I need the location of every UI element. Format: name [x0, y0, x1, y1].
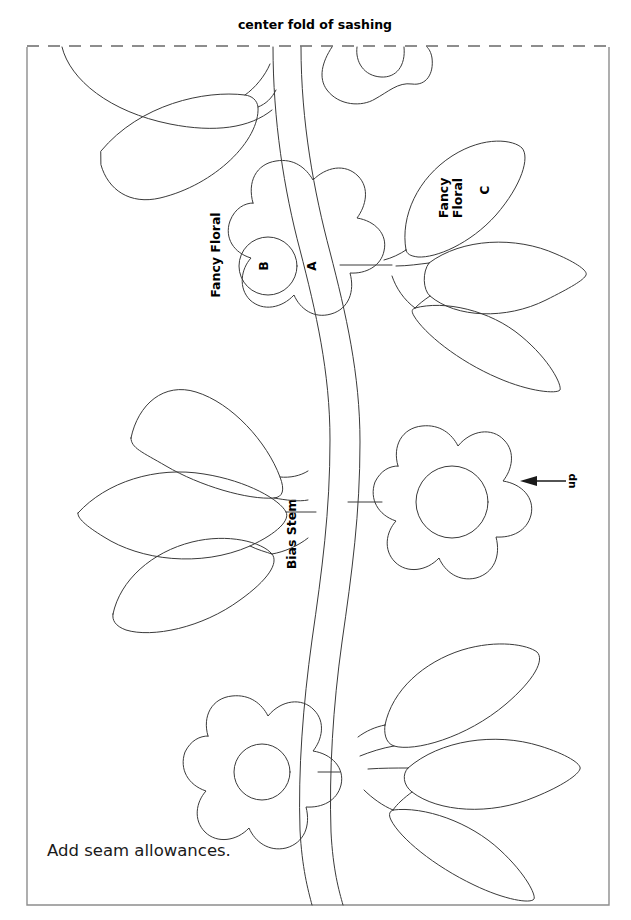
stem-left-edge [273, 47, 330, 905]
pattern-drawing: center fold of sashing Bias Stem [0, 0, 631, 920]
flower-top-center [357, 47, 405, 77]
flower-bottom-center [234, 744, 290, 800]
leaf-right-middle [424, 242, 586, 314]
leaf-top-partial [62, 47, 272, 128]
flower-petal-outline [228, 160, 384, 315]
orientation-indicator: up [520, 473, 577, 488]
flower-bottom [183, 696, 342, 849]
piece-label-c: C [478, 185, 492, 194]
flower-middle-outline [373, 426, 532, 579]
leaf-connector-14 [368, 768, 408, 769]
leaf-stem-connector-2 [245, 64, 270, 95]
leaf-cluster-bottom-right [358, 644, 580, 901]
leaf-stem-connector-1 [258, 90, 276, 107]
leaf-connector-5 [392, 276, 415, 308]
leaf-cluster-top-right [384, 242, 586, 392]
leaf-connector-11 [250, 546, 272, 554]
leaf-connector-12 [358, 725, 385, 737]
leaf-labeled-c: Fancy Floral C [405, 141, 525, 257]
piece-label-b: B [257, 261, 271, 270]
stem-label: Bias Stem [284, 499, 299, 570]
flower-middle-center [416, 466, 488, 538]
piece-label-a: A [305, 261, 319, 271]
fabric-label-leaf-line2: Floral [450, 178, 465, 218]
up-label: up [565, 473, 577, 488]
bias-stem: Bias Stem [273, 47, 360, 905]
leaf-mid-center-left [78, 472, 287, 559]
quilt-pattern-diagram: center fold of sashing Bias Stem [0, 0, 631, 920]
flower-middle [348, 426, 532, 579]
leaf-bottom-lower [390, 809, 535, 901]
leaf-connector-3 [384, 250, 406, 260]
leaf-bottom-middle [404, 739, 580, 809]
fabric-label-leaf-line1: Fancy [436, 178, 451, 219]
leaf-bottom-upper [385, 644, 540, 747]
fabric-label-top-flower: Fancy Floral [208, 212, 223, 297]
leaf-cluster-top-left [62, 47, 276, 200]
flower-top-partial [322, 47, 432, 104]
page-title: center fold of sashing [238, 17, 392, 32]
leaf-connector-7 [280, 471, 308, 477]
leaf-connector-15 [364, 790, 393, 810]
leaf-connector-16 [393, 792, 412, 810]
leaf-mid-upper-left [131, 390, 283, 499]
seam-allowance-note: Add seam allowances. [47, 841, 231, 860]
leaf-right-lower [412, 305, 560, 392]
flower-top-labeled: A B Fancy Floral [208, 160, 392, 315]
leaf-cluster-middle-left [78, 390, 316, 633]
leaf-connector-4 [396, 263, 429, 266]
up-arrow-head-icon [520, 476, 537, 486]
leaf-connector-13 [360, 746, 394, 756]
flower-top-outline [322, 47, 432, 104]
